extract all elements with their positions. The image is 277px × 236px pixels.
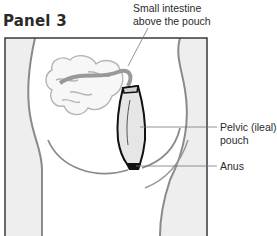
anatomy-illustration [0, 0, 277, 236]
leader-small-intestine [128, 28, 148, 66]
anus [126, 164, 141, 170]
pelvic-pouch [117, 86, 145, 170]
small-intestine [46, 56, 123, 115]
